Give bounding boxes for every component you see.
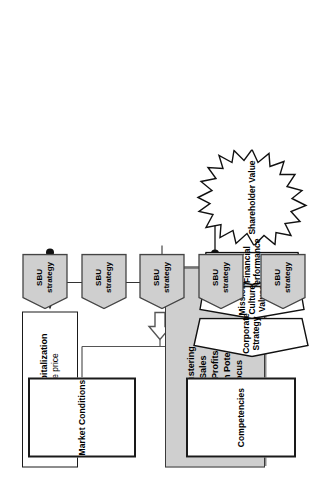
competencies-box: Competencies [186, 377, 296, 457]
sbu-strategy-label: SBU strategy [260, 255, 306, 299]
diagram-stage: ● Market Capitalization – Share price ● … [0, 0, 324, 485]
shareholder-value-starburst: Shareholder Value [196, 149, 308, 245]
chevron-corporate-strategy: Corporate Strategy [192, 317, 310, 357]
sbu-strategy-node-5: SBU strategy [260, 253, 306, 309]
sbu-line-1: SBU [35, 269, 45, 286]
competencies-label: Competencies [236, 387, 247, 446]
sbu-strategy-label: SBU strategy [198, 255, 244, 299]
sbu-strategy-node-4: SBU strategy [198, 253, 244, 309]
sbu-strategy-label: SBU strategy [81, 255, 127, 299]
market-conditions-box: Market Conditions [28, 377, 136, 457]
sbu-strategy-label: SBU strategy [22, 255, 68, 299]
sbu-line-2: strategy [45, 261, 55, 292]
sbu-strategy-node-1: SBU strategy [22, 253, 68, 309]
sbu-line-1: SBU [273, 269, 283, 286]
sbu-line-2: strategy [283, 261, 293, 292]
sbu-line-2: strategy [104, 261, 114, 292]
sbu-strategy-label: SBU strategy [139, 255, 185, 299]
shareholder-value-label: Shareholder Value [196, 149, 308, 245]
market-conditions-label: Market Conditions [77, 379, 88, 455]
sbu-line-1: SBU [152, 269, 162, 286]
sbu-line-2: strategy [162, 261, 172, 292]
sbu-line-2: strategy [221, 261, 231, 292]
diagram-canvas: ● Market Capitalization – Share price ● … [0, 0, 324, 485]
sbu-strategy-node-2: SBU strategy [81, 253, 127, 309]
sbu-line-1: SBU [94, 269, 104, 286]
chevron-label: Corporate Strategy [192, 317, 310, 357]
sbu-strategy-node-3: SBU strategy [139, 253, 185, 309]
sbu-line-1: SBU [211, 269, 221, 286]
